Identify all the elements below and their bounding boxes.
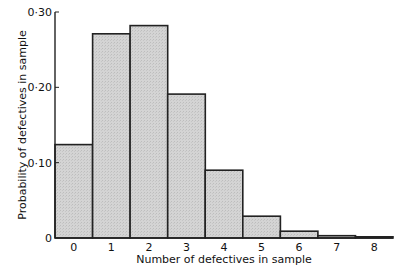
x-tick-label: 7 — [333, 241, 340, 254]
bar-0 — [55, 145, 93, 238]
histogram-chart: 00·100·200·30 012345678 Number of defect… — [0, 0, 411, 271]
bar-6 — [280, 231, 318, 238]
y-tick-label: 0·10 — [28, 157, 53, 170]
bar-3 — [168, 94, 206, 238]
y-axis-title: Probability of defectives in sample — [16, 30, 29, 220]
x-tick-label: 0 — [70, 241, 77, 254]
y-tick-label: 0·20 — [28, 81, 53, 94]
bar-5 — [243, 216, 281, 238]
bar-2 — [130, 26, 168, 238]
x-axis-title: Number of defectives in sample — [136, 253, 312, 266]
bar-1 — [93, 34, 131, 238]
y-tick-label: 0 — [45, 232, 52, 245]
x-tick-label: 8 — [371, 241, 378, 254]
x-axis: 012345678 — [55, 238, 393, 254]
y-tick-label: 0·30 — [28, 6, 53, 19]
bars-group — [55, 26, 393, 238]
x-tick-label: 1 — [108, 241, 115, 254]
bar-4 — [205, 170, 243, 238]
